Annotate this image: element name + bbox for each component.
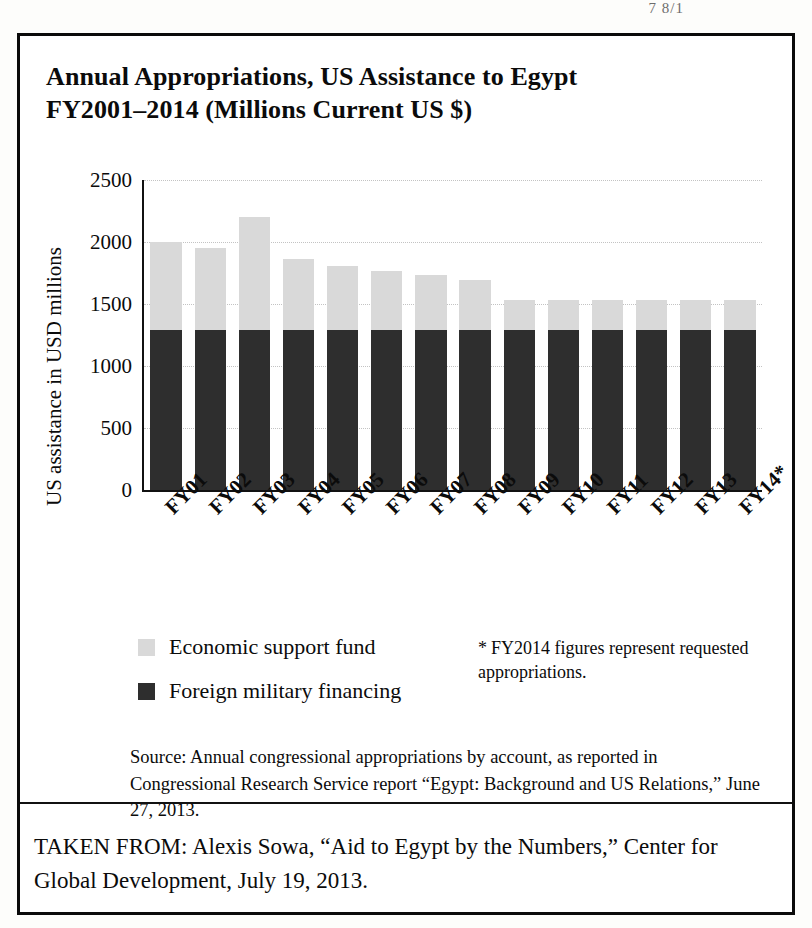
legend-item-fmf: Foreign military financing [138,678,468,704]
bar-segment-economic-support-fund [724,300,755,330]
bar-slot [718,180,762,490]
bar-slot [188,180,232,490]
y-tick-label: 1500 [90,292,132,317]
bar-slot [409,180,453,490]
bar-slot [276,180,320,490]
y-axis-title: US assistance in USD millions [42,266,66,506]
y-tick-label: 500 [101,416,133,441]
legend-swatch-esf [138,639,155,656]
stacked-bar [195,248,226,490]
bar-chart: US assistance in USD millions 0500100015… [46,171,770,611]
bar-segment-foreign-military-financing [415,330,446,490]
stacked-bar [504,300,535,490]
bar-segment-foreign-military-financing [548,330,579,490]
bar-segment-economic-support-fund [150,242,181,330]
figure-title: Annual Appropriations, US Assistance to … [46,60,736,127]
bar-slot [232,180,276,490]
bar-segment-foreign-military-financing [150,330,181,490]
source-note: Source: Annual congressional appropriati… [130,744,760,824]
bar-slot [585,180,629,490]
bar-slot [144,180,188,490]
stacked-bar [371,271,402,490]
section-divider [20,802,792,804]
bar-segment-foreign-military-financing [459,330,490,490]
footnote: *FY2014 figures represent requested appr… [478,636,768,684]
bar-slot [365,180,409,490]
bar-segment-foreign-military-financing [636,330,667,490]
figure-title-line-1: Annual Appropriations, US Assistance to … [46,60,736,93]
page-header-fragment: 7 8/1 [0,0,812,26]
legend-label: Economic support fund [169,634,376,660]
y-tick-label: 2000 [90,230,132,255]
bar-segment-economic-support-fund [592,300,623,330]
y-tick-label: 1000 [90,354,132,379]
stacked-bar [636,300,667,490]
bar-slot [321,180,365,490]
bar-slot [453,180,497,490]
bar-segment-economic-support-fund [195,248,226,330]
legend-label: Foreign military financing [169,678,401,704]
bar-segment-economic-support-fund [327,266,358,330]
bar-segment-foreign-military-financing [504,330,535,490]
taken-from-attribution: TAKEN FROM: Alexis Sowa, “Aid to Egypt b… [34,830,774,897]
bar-slot [497,180,541,490]
figure-title-line-2: FY2001–2014 (Millions Current US $) [46,93,736,126]
stacked-bar [150,242,181,490]
stacked-bar [327,266,358,490]
bar-segment-foreign-military-financing [239,330,270,490]
bar-segment-economic-support-fund [283,259,314,330]
stacked-bar [680,300,711,490]
bar-segment-economic-support-fund [239,217,270,330]
legend-item-esf: Economic support fund [138,634,468,660]
stacked-bar [283,259,314,490]
figure-frame: Annual Appropriations, US Assistance to … [17,33,795,915]
stacked-bar [459,280,490,490]
bar-segment-economic-support-fund [636,300,667,330]
y-tick-label: 2500 [90,168,132,193]
bar-segment-economic-support-fund [680,300,711,330]
bar-segment-economic-support-fund [548,300,579,330]
bar-segment-foreign-military-financing [680,330,711,490]
legend-and-footnote: Economic support fundForeign military fi… [138,634,778,726]
bar-segment-economic-support-fund [504,300,535,330]
y-tick-label: 0 [122,478,133,503]
footnote-star: * [478,638,487,658]
stacked-bar [724,300,755,490]
footnote-text: FY2014 figures represent requested appro… [478,638,748,682]
stacked-bar [239,217,270,490]
bar-segment-foreign-military-financing [724,330,755,490]
stacked-bar [548,300,579,490]
chart-legend: Economic support fundForeign military fi… [138,634,468,722]
bar-segment-economic-support-fund [415,275,446,330]
bar-slot [630,180,674,490]
bar-segment-foreign-military-financing [592,330,623,490]
bar-slot [674,180,718,490]
x-axis-tick-labels: FY01FY02FY03FY04FY05FY06FY07FY08FY09FY10… [142,498,760,598]
bar-series-group [144,180,762,490]
stacked-bar [415,275,446,490]
bar-segment-foreign-military-financing [195,330,226,490]
bar-segment-foreign-military-financing [283,330,314,490]
bar-segment-economic-support-fund [371,271,402,330]
legend-swatch-fmf [138,683,155,700]
bar-segment-economic-support-fund [459,280,490,330]
plot-wrapper: 05001000150020002500 FY01FY02FY03FY04FY0… [142,180,762,496]
bar-segment-foreign-military-financing [371,330,402,490]
bar-segment-foreign-military-financing [327,330,358,490]
plot-area [142,180,762,492]
stacked-bar [592,300,623,490]
bar-slot [541,180,585,490]
